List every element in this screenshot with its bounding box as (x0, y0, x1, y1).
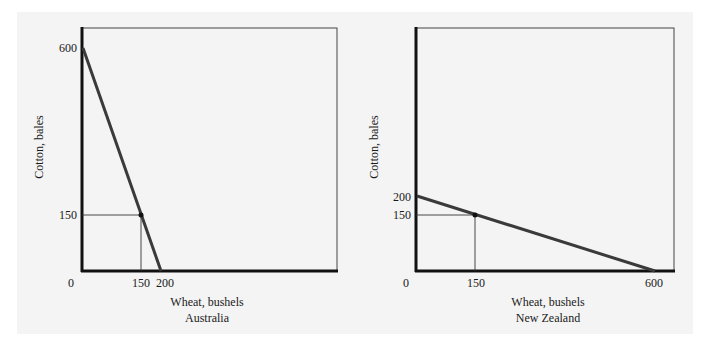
y-tick-600: 600 (59, 41, 77, 55)
chart-australia: 600 150 0 150 200 Wheat, bushels Austral… (32, 27, 338, 325)
x-tick-150: 150 (467, 276, 485, 290)
production-point (139, 213, 144, 218)
y-tick-150: 150 (59, 208, 77, 222)
y-tick-150: 150 (393, 208, 411, 222)
chart-caption: Australia (185, 311, 230, 325)
chart-new-zealand: 200 150 0 150 600 Wheat, bushels New Zea… (367, 27, 675, 325)
x-tick-600: 600 (645, 276, 663, 290)
x-axis-label: Wheat, bushels (170, 295, 244, 309)
origin-label: 0 (403, 276, 409, 290)
chart-caption: New Zealand (516, 311, 580, 325)
x-tick-150: 150 (132, 276, 150, 290)
y-axis-label: Cotton, bales (367, 115, 381, 179)
plot-frame (82, 28, 337, 271)
frontier-line (83, 48, 161, 271)
frontier-line (417, 196, 655, 271)
plot-frame (416, 28, 674, 271)
x-tick-200: 200 (156, 276, 174, 290)
x-axis-label: Wheat, bushels (511, 295, 585, 309)
y-axis-label: Cotton, bales (32, 115, 46, 179)
figure: 600 150 0 150 200 Wheat, bushels Austral… (0, 0, 709, 345)
y-tick-200: 200 (393, 190, 411, 204)
production-point (473, 213, 478, 218)
origin-label: 0 (68, 276, 74, 290)
